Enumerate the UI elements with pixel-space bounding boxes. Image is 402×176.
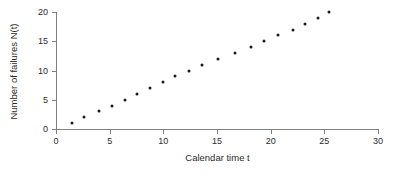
x-axis-tick-label: 0: [53, 136, 58, 146]
data-point: [234, 51, 237, 54]
data-point: [327, 11, 330, 14]
y-axis-tick-label: 20: [38, 7, 48, 17]
data-point: [82, 116, 85, 119]
data-point: [263, 40, 266, 43]
data-point: [304, 22, 307, 25]
data-point: [292, 28, 295, 31]
x-axis-tick: [56, 130, 57, 134]
x-axis-label: Calendar time t: [56, 152, 379, 163]
x-axis-tick: [217, 130, 218, 134]
y-axis-tick: [52, 41, 56, 42]
y-axis-tick: [52, 12, 56, 13]
data-point: [316, 16, 319, 19]
x-axis-tick: [163, 130, 164, 134]
y-axis-tick: [52, 71, 56, 72]
data-point: [162, 81, 165, 84]
data-point: [97, 110, 100, 113]
x-axis-tick-label: 25: [319, 136, 329, 146]
data-point: [217, 57, 220, 60]
data-point: [188, 69, 191, 72]
y-axis-label: Number of failures N(t): [6, 12, 20, 130]
x-axis-tick-label: 20: [266, 136, 276, 146]
data-point: [149, 87, 152, 90]
data-point: [123, 98, 126, 101]
x-axis-tick-label: 5: [107, 136, 112, 146]
data-point: [200, 63, 203, 66]
y-axis-tick-label: 0: [43, 124, 48, 134]
x-axis-tick: [271, 130, 272, 134]
data-point: [174, 75, 177, 78]
y-axis-tick-label: 5: [43, 95, 48, 105]
scatter-chart-figure: Number of failures N(t) Calendar time t …: [0, 0, 402, 176]
y-axis-label-text: Number of failures N(t): [8, 23, 19, 119]
data-point: [135, 92, 138, 95]
x-axis-tick: [110, 130, 111, 134]
x-axis-tick: [378, 130, 379, 134]
data-point: [250, 46, 253, 49]
y-axis-tick: [52, 129, 56, 130]
plot-area: [56, 12, 378, 129]
y-axis-tick-label: 10: [38, 66, 48, 76]
x-axis-tick: [324, 130, 325, 134]
data-point: [110, 104, 113, 107]
y-axis-tick: [52, 100, 56, 101]
data-point: [277, 34, 280, 37]
x-axis-tick-label: 15: [212, 136, 222, 146]
x-axis-tick-label: 10: [158, 136, 168, 146]
data-point: [71, 122, 74, 125]
x-axis-tick-label: 30: [373, 136, 383, 146]
y-axis-tick-label: 15: [38, 36, 48, 46]
